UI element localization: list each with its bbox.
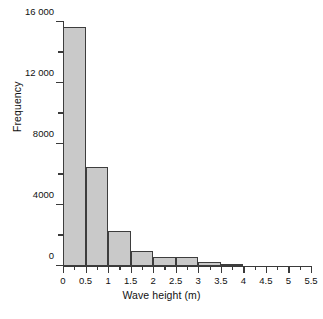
x-tick-label: 0.5 xyxy=(79,275,92,286)
x-tick-label: 2.5 xyxy=(169,275,182,286)
histogram-bar xyxy=(176,257,199,266)
x-tick-mark xyxy=(300,266,301,270)
x-tick-mark xyxy=(210,266,211,270)
x-tick-mark xyxy=(311,266,312,273)
x-tick-mark xyxy=(243,266,244,273)
histogram-bar xyxy=(63,27,86,266)
x-tick-mark xyxy=(97,266,98,270)
x-tick-label: 0 xyxy=(60,275,65,286)
x-tick-label: 1 xyxy=(105,275,110,286)
x-tick-mark xyxy=(232,266,233,270)
x-tick-mark xyxy=(266,266,267,273)
y-tick-mark xyxy=(56,21,63,22)
x-tick-mark xyxy=(74,266,75,270)
histogram-bar xyxy=(86,167,109,266)
x-tick-label: 5 xyxy=(286,275,291,286)
y-tick-label: 4000 xyxy=(33,189,54,200)
x-tick-mark xyxy=(221,266,222,273)
x-tick-mark xyxy=(153,266,154,273)
y-tick-mark xyxy=(56,265,63,266)
x-tick-mark xyxy=(288,266,289,273)
x-tick-label: 4.5 xyxy=(259,275,272,286)
x-tick-label: 2 xyxy=(151,275,156,286)
x-tick-label: 3 xyxy=(196,275,201,286)
histogram-bar xyxy=(131,251,154,266)
histogram-figure: Frequency 04000800012 00016 000 00.511.5… xyxy=(0,0,323,319)
x-tick-mark xyxy=(176,266,177,273)
y-tick-label: 16 000 xyxy=(25,6,54,17)
x-tick-mark xyxy=(108,266,109,273)
y-tick-mark xyxy=(56,143,63,144)
x-tick-label: 4 xyxy=(241,275,246,286)
y-tick-label: 12 000 xyxy=(25,67,54,78)
x-tick-label: 1.5 xyxy=(124,275,137,286)
y-tick-label: 8000 xyxy=(33,128,54,139)
y-tick-mark xyxy=(56,82,63,83)
x-tick-label: 3.5 xyxy=(214,275,227,286)
x-tick-mark xyxy=(63,266,64,273)
histogram-bar xyxy=(153,257,176,266)
x-tick-label: 5.5 xyxy=(304,275,317,286)
x-tick-mark xyxy=(86,266,87,273)
x-tick-mark xyxy=(119,266,120,270)
y-tick-label: 0 xyxy=(49,250,54,261)
histogram-bar xyxy=(198,262,221,266)
x-tick-mark xyxy=(131,266,132,273)
x-tick-mark xyxy=(142,266,143,270)
x-tick-mark xyxy=(277,266,278,270)
histogram-bar xyxy=(108,231,131,266)
plot-area: 04000800012 00016 000 00.511.522.533.544… xyxy=(63,22,311,266)
y-tick-mark xyxy=(56,204,63,205)
x-tick-mark xyxy=(164,266,165,270)
x-axis-title: Wave height (m) xyxy=(0,289,323,301)
x-tick-mark xyxy=(187,266,188,270)
x-tick-mark xyxy=(255,266,256,270)
x-tick-mark xyxy=(198,266,199,273)
y-axis-title: Frequency xyxy=(11,32,23,132)
histogram-bar xyxy=(221,264,244,266)
